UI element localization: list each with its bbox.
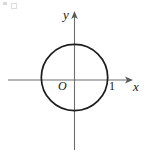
origin-label: O — [58, 80, 67, 92]
x-tick-label-1: 1 — [109, 80, 115, 92]
figure-canvas: y x O 1 — [0, 0, 147, 153]
x-axis-label: x — [133, 80, 139, 93]
scan-artifact-speck — [3, 2, 7, 5]
scan-artifact-speck — [11, 3, 17, 9]
y-axis-label: y — [63, 8, 69, 21]
coordinate-plane-svg — [0, 0, 147, 153]
